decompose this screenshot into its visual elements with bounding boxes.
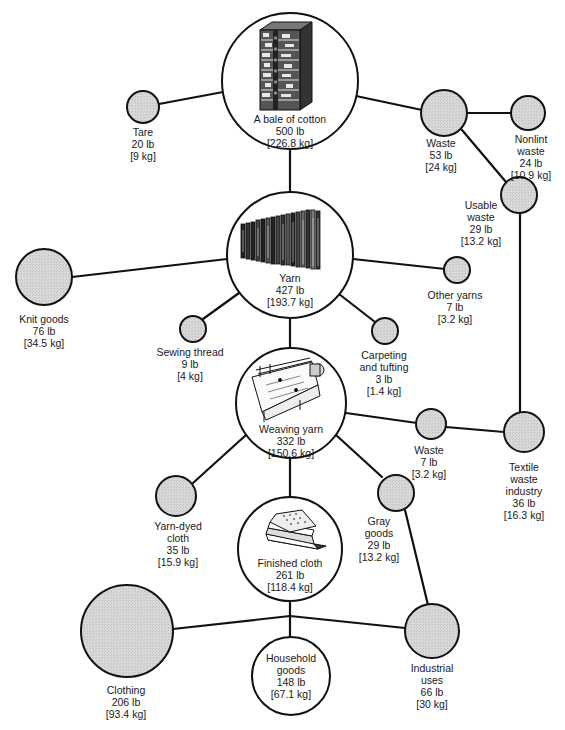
node-other-yarns[interactable] <box>444 257 470 283</box>
edge-junction-industrial <box>290 616 405 628</box>
edge-bale-tare <box>159 92 223 104</box>
edge-waste-textile <box>446 427 504 432</box>
edge-yarn-knit <box>72 259 227 277</box>
node-waste-53[interactable] <box>421 90 467 136</box>
edge-yarn-other <box>353 259 445 269</box>
label-knit-goods: Knit goods 76 lb [34.5 kg] <box>19 313 69 349</box>
edge-weaving-gray <box>336 435 382 477</box>
node-sewing-thread[interactable] <box>180 316 206 342</box>
node-textile-waste[interactable] <box>504 412 544 452</box>
node-tare[interactable] <box>127 91 159 123</box>
edge-gray-industrial <box>405 510 428 605</box>
label-clothing: Clothing 206 lb [93.4 kg] <box>106 684 146 720</box>
label-textile-waste: Textile waste industry 36 lb [16.3 kg] <box>504 461 544 521</box>
edge-yarn-carpeting <box>339 294 375 322</box>
node-nonlint-waste[interactable] <box>511 96 545 130</box>
label-finished-cloth: Finished cloth 261 lb [118.4 kg] <box>258 557 323 593</box>
label-waste-7: Waste 7 lb [3.2 kg] <box>412 444 446 480</box>
label-nonlint-waste: Nonlint waste 24 lb [10.9 kg] <box>511 133 551 181</box>
label-yarn-dyed-cloth: Yarn-dyed cloth 35 lb [15.9 kg] <box>154 520 202 568</box>
cotton-flow-diagram <box>0 0 565 730</box>
node-gray-goods[interactable] <box>378 475 414 511</box>
edge-weaving-yarndyed <box>193 435 246 483</box>
label-bale: A bale of cotton 500 lb [226.8 kg] <box>254 113 326 149</box>
node-usable-waste[interactable] <box>501 177 537 213</box>
edge-junction-clothing <box>173 616 290 629</box>
label-waste-53: Waste 53 lb [24 kg] <box>425 137 457 173</box>
node-clothing[interactable] <box>81 585 173 677</box>
label-household-goods: Household goods 148 lb [67.1 kg] <box>266 652 316 700</box>
cotton-bale-icon <box>260 22 312 110</box>
edge-bale-waste <box>356 96 422 110</box>
label-weaving-yarn: Weaving yarn 332 lb [150.6 kg] <box>259 423 323 459</box>
node-yarn-dyed-cloth[interactable] <box>156 476 196 516</box>
label-usable-waste: Usable waste 29 lb [13.2 kg] <box>461 199 501 247</box>
label-other-yarns: Other yarns 7 lb [3.2 kg] <box>428 289 483 325</box>
label-carpeting: Carpeting and tufting 3 lb [1.4 kg] <box>359 349 408 397</box>
label-industrial-uses: Industrial uses 66 lb [30 kg] <box>411 662 454 710</box>
edge-yarn-sewing <box>203 293 239 319</box>
node-knit-goods[interactable] <box>16 249 72 305</box>
label-yarn: Yarn 427 lb [193.7 kg] <box>267 272 313 308</box>
edge-waste-usable <box>462 130 506 182</box>
label-sewing-thread: Sewing thread 9 lb [4 kg] <box>156 346 223 382</box>
node-waste-7[interactable] <box>416 409 446 439</box>
node-industrial-uses[interactable] <box>405 604 459 658</box>
label-gray-goods: Gray goods 29 lb [13.2 kg] <box>359 515 399 563</box>
label-tare: Tare 20 lb [9 kg] <box>130 126 156 162</box>
node-carpeting[interactable] <box>372 318 398 344</box>
edge-weaving-waste <box>346 413 417 423</box>
